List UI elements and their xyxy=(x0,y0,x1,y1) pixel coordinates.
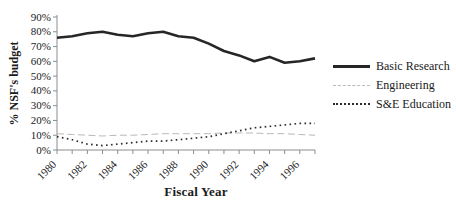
legend: Basic ResearchEngineeringS&E Education xyxy=(333,60,451,110)
series-line-engineering xyxy=(57,133,315,136)
legend-line-sample xyxy=(333,65,370,68)
legend-label: S&E Education xyxy=(376,97,451,112)
y-axis-tick-label: 40% xyxy=(31,84,51,96)
x-axis-title: Fiscal Year xyxy=(140,184,252,200)
legend-line-sample xyxy=(333,85,370,86)
x-axis-tick-label: 1988 xyxy=(156,158,180,182)
x-axis-tick-label: 1994 xyxy=(247,158,271,182)
series-line-basic-research xyxy=(57,32,315,63)
legend-item-engineering: Engineering xyxy=(333,79,451,91)
y-axis-tick-label: 10% xyxy=(31,129,51,141)
legend-item-basic-research: Basic Research xyxy=(333,60,451,72)
series-line-s-e-education xyxy=(57,123,315,145)
legend-item-s-e-education: S&E Education xyxy=(333,98,451,110)
y-axis-tick-label: 30% xyxy=(31,99,51,111)
x-axis-tick-label: 1990 xyxy=(186,158,210,182)
y-axis-tick-label: 50% xyxy=(31,70,51,82)
legend-label: Engineering xyxy=(376,78,435,93)
x-axis-tick-label: 1996 xyxy=(277,158,301,182)
y-axis-tick-label: 90% xyxy=(31,11,51,23)
x-axis-tick-label: 1986 xyxy=(125,158,149,182)
legend-label: Basic Research xyxy=(376,59,450,74)
x-axis-tick-label: 1980 xyxy=(34,158,58,182)
y-axis-tick-label: 60% xyxy=(31,55,51,67)
y-axis-tick-label: 80% xyxy=(31,25,51,37)
y-axis-title: % NSF's budget xyxy=(7,24,22,144)
x-axis-tick-label: 1984 xyxy=(95,158,119,182)
chart-container: 0%10%20%30%40%50%60%70%80%90%19801982198… xyxy=(0,0,456,204)
y-axis-tick-label: 0% xyxy=(36,144,51,156)
x-axis-tick-label: 1982 xyxy=(65,158,89,182)
y-axis-tick-label: 20% xyxy=(31,114,51,126)
y-axis-tick-label: 70% xyxy=(31,40,51,52)
legend-line-sample xyxy=(333,103,370,105)
x-axis-tick-label: 1992 xyxy=(216,158,240,182)
